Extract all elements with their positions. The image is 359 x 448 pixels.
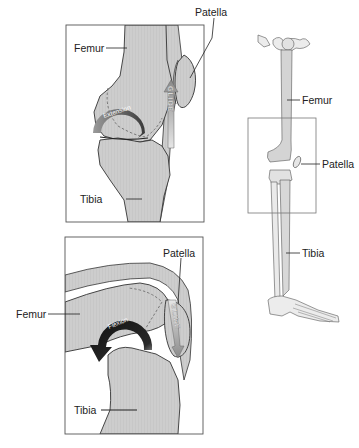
tibia-bone-flexed: [100, 347, 180, 434]
label-femur-skeleton: Femur: [302, 95, 332, 106]
label-femur-extension: Femur: [74, 43, 104, 54]
foot-skeleton: [268, 296, 339, 322]
label-patella-extension: Patella: [195, 7, 227, 18]
knee-diagram: Extension GLIDE Flexion: [0, 0, 359, 448]
label-femur-flexion: Femur: [16, 309, 46, 320]
tibia-skeleton: [280, 180, 290, 296]
leg-skeleton: [248, 35, 339, 322]
femur-bone-flexed: [65, 283, 172, 352]
label-patella-skeleton: Patella: [322, 159, 354, 170]
femur-bone: [94, 25, 172, 142]
label-patella-flexion: Patella: [163, 248, 195, 259]
patella-skeleton: [292, 155, 303, 168]
flexion-panel: Flexion GLIDE: [48, 237, 203, 434]
glide-arrow-label: GLIDE: [167, 86, 174, 112]
tibia-bone: [98, 138, 170, 222]
pelvis-fragment: [258, 35, 270, 47]
label-tibia-skeleton: Tibia: [302, 248, 324, 259]
fibula-skeleton: [271, 182, 280, 300]
femur-skeleton: [267, 50, 292, 162]
patella-bone: [175, 55, 196, 108]
label-tibia-extension: Tibia: [80, 194, 102, 205]
label-tibia-flexion: Tibia: [74, 405, 96, 416]
